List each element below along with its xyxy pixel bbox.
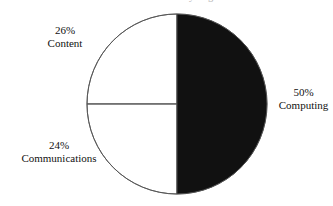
pie-label-computing: 50% Computing — [274, 86, 333, 111]
pie-label-communications-percent: 24% — [0, 139, 118, 152]
pie-label-computing-name: Computing — [274, 99, 333, 112]
pie-label-communications-name: Communications — [0, 152, 118, 165]
pie-label-content: 26% Content — [17, 24, 113, 49]
pie-slice-computing[interactable] — [177, 14, 267, 194]
pie-label-communications: 24% Communications — [0, 139, 118, 164]
chart-canvas: Total Market Share by Segment 26% Conten… — [0, 0, 333, 206]
pie-label-computing-percent: 50% — [274, 86, 333, 99]
pie-label-content-percent: 26% — [17, 24, 113, 37]
pie-label-content-name: Content — [17, 37, 113, 50]
